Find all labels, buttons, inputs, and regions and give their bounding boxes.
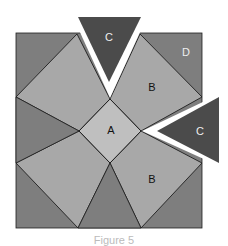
figure-caption: Figure 5 bbox=[0, 234, 228, 246]
label-C-right: C bbox=[196, 125, 204, 137]
label-D: D bbox=[182, 46, 190, 58]
label-B-bottom: B bbox=[148, 173, 155, 185]
label-B-top: B bbox=[148, 81, 155, 93]
label-A: A bbox=[107, 124, 115, 136]
label-C-top: C bbox=[105, 31, 113, 43]
